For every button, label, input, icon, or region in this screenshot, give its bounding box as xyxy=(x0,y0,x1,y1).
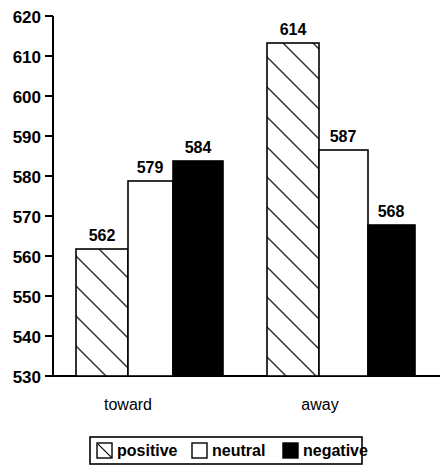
y-tick-label-540: 540 xyxy=(13,328,41,347)
bar-value-label-away-neutral: 587 xyxy=(330,128,357,145)
y-tick-label-590: 590 xyxy=(13,128,41,147)
legend-label-positive: positive xyxy=(117,442,178,459)
legend-label-negative: negative xyxy=(303,442,368,459)
y-tick-label-530: 530 xyxy=(13,368,41,387)
bar-away-negative[interactable] xyxy=(368,225,415,376)
legend-swatch-neutral-empty-square-icon xyxy=(192,443,207,458)
legend-swatch-negative-filled-square-icon xyxy=(283,443,298,458)
bar-value-label-toward-neutral: 579 xyxy=(137,159,164,176)
chart-canvas: 620 610 600 590 580 570 560 550 540 530 … xyxy=(0,0,447,467)
bar-toward-neutral[interactable] xyxy=(128,181,173,376)
y-tick-label-610: 610 xyxy=(13,48,41,67)
x-category-label-away: away xyxy=(301,396,338,413)
bar-toward-positive[interactable] xyxy=(76,249,128,376)
y-tick-label-550: 550 xyxy=(13,288,41,307)
legend-label-neutral: neutral xyxy=(212,442,265,459)
y-tick-label-620: 620 xyxy=(13,8,41,27)
bar-toward-negative[interactable] xyxy=(173,161,223,376)
y-tick-label-570: 570 xyxy=(13,208,41,227)
y-tick-label-580: 580 xyxy=(13,168,41,187)
bar-value-label-away-negative: 568 xyxy=(378,203,405,220)
bar-value-label-away-positive: 614 xyxy=(280,21,307,38)
bar-value-label-toward-negative: 584 xyxy=(185,139,212,156)
bar-chart: 620 610 600 590 580 570 560 550 540 530 … xyxy=(0,0,447,467)
x-category-label-toward: toward xyxy=(104,396,152,413)
bar-away-positive[interactable] xyxy=(267,43,319,376)
y-tick-label-560: 560 xyxy=(13,248,41,267)
bar-value-label-toward-positive: 562 xyxy=(89,227,116,244)
y-tick-label-600: 600 xyxy=(13,88,41,107)
bar-away-neutral[interactable] xyxy=(319,150,368,376)
